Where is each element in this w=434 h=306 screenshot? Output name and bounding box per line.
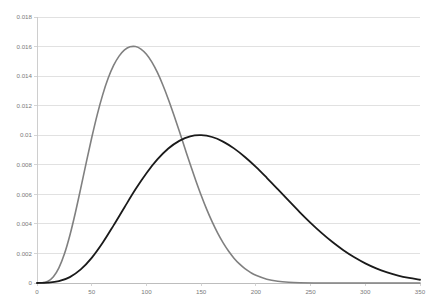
y-tick-label-1: 0.002: [17, 250, 33, 257]
y-tick-label-8: 0.016: [17, 43, 33, 50]
distribution-chart: 00.0020.0040.0060.0080.010.0120.0140.016…: [0, 0, 434, 306]
y-tick-label-6: 0.012: [17, 102, 33, 109]
x-tick-label-0: 0: [35, 288, 39, 295]
y-axis-tick-labels: 00.0020.0040.0060.0080.010.0120.0140.016…: [17, 13, 33, 286]
y-tick-label-7: 0.014: [17, 72, 33, 79]
y-tick-label-3: 0.006: [17, 191, 33, 198]
y-tick-label-0: 0: [29, 279, 33, 286]
x-tick-label-6: 300: [360, 288, 371, 295]
y-tick-label-2: 0.004: [17, 220, 33, 227]
chart-container: 00.0020.0040.0060.0080.010.0120.0140.016…: [0, 0, 434, 306]
x-axis-tick-labels: 050100150200250300350: [35, 288, 425, 295]
axes: [34, 17, 420, 286]
x-tick-label-1: 50: [88, 288, 95, 295]
x-tick-label-3: 150: [196, 288, 207, 295]
gridlines: [37, 17, 420, 283]
x-tick-label-5: 250: [305, 288, 316, 295]
y-tick-label-5: 0.01: [20, 131, 33, 138]
x-tick-label-4: 200: [251, 288, 262, 295]
series-line-black-distribution: [37, 135, 420, 283]
x-tick-label-2: 100: [141, 288, 152, 295]
x-tick-label-7: 350: [415, 288, 426, 295]
y-tick-label-9: 0.018: [17, 13, 33, 20]
y-tick-label-4: 0.008: [17, 161, 33, 168]
